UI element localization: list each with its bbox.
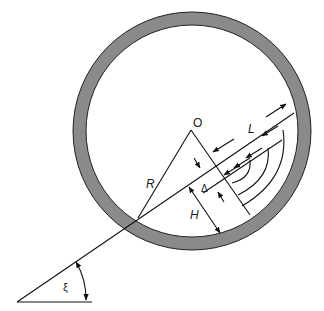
label-radius-r: R	[146, 177, 155, 191]
pipe-cross-section-diagram: O R L H Δ ξ	[0, 0, 324, 311]
delta-dimension	[194, 158, 224, 202]
label-height-h: H	[190, 208, 199, 222]
inclined-line	[17, 113, 294, 302]
label-length-l: L	[248, 122, 255, 136]
label-center-o: O	[193, 116, 202, 130]
label-angle-xi: ξ	[63, 281, 68, 293]
radius-line	[138, 130, 191, 218]
angle-arc	[76, 262, 86, 300]
label-delta: Δ	[201, 183, 208, 194]
